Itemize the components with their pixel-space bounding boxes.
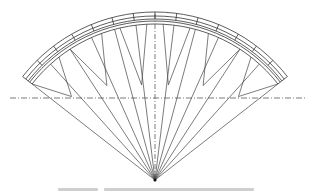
apex-point	[153, 178, 156, 181]
caption-placeholder	[104, 188, 254, 191]
caption-placeholder	[58, 188, 98, 191]
fan-diagram	[0, 0, 311, 195]
figure-caption	[0, 183, 311, 195]
